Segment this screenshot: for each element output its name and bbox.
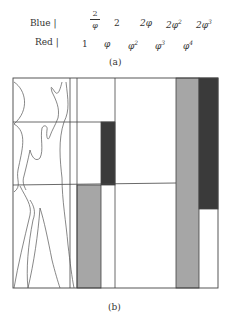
- dark-bar-right: [199, 78, 218, 209]
- caption-b: (b): [108, 302, 121, 312]
- modulor-diagram: [0, 0, 228, 328]
- dark-bar-middle: [101, 122, 115, 185]
- gray-bar-left: [77, 185, 101, 288]
- gray-bar-right: [176, 78, 199, 288]
